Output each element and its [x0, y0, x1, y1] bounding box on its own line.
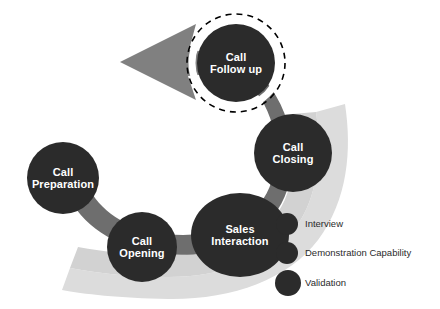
- diagram-canvas: [0, 0, 440, 309]
- legend-bullet-demonstration-capability: [276, 242, 298, 264]
- process-flow-diagram: Call Preparation Call Opening Sales Inte…: [0, 0, 440, 309]
- node-sales-interaction[interactable]: [191, 193, 289, 277]
- legend-label-validation: Validation: [305, 278, 346, 288]
- node-call-follow-up[interactable]: [197, 24, 275, 102]
- legend-label-demonstration-capability: Demonstration Capability: [305, 248, 411, 258]
- legend-bullet-interview: [276, 213, 298, 235]
- legend-label-interview: Interview: [305, 219, 343, 229]
- node-call-preparation[interactable]: [27, 142, 99, 214]
- node-call-closing[interactable]: [254, 114, 332, 192]
- node-call-opening[interactable]: [107, 212, 177, 282]
- legend-bullet-validation: [275, 270, 301, 296]
